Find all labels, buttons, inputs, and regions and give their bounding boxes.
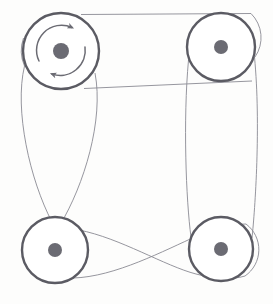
pulley-bottom-right-hub [214, 242, 228, 256]
diagram-canvas [0, 0, 273, 304]
pulley-bottom-right [189, 217, 253, 281]
pulley-top-left-hub [53, 43, 69, 59]
belt-right-open-outer-span [252, 57, 257, 238]
pulley-group [22, 13, 255, 283]
belt-right-open-inner-span [186, 60, 191, 237]
belt-top-open-lower-span [84, 81, 252, 89]
belt-right-open [186, 57, 258, 238]
pulley-bottom-left [22, 217, 88, 283]
pulley-top-right-hub [214, 40, 228, 54]
pulley-bottom-left-hub [48, 243, 62, 257]
belt-pulley-diagram [0, 0, 273, 304]
pulley-top-right [187, 13, 255, 81]
pulley-top-left [23, 13, 99, 89]
